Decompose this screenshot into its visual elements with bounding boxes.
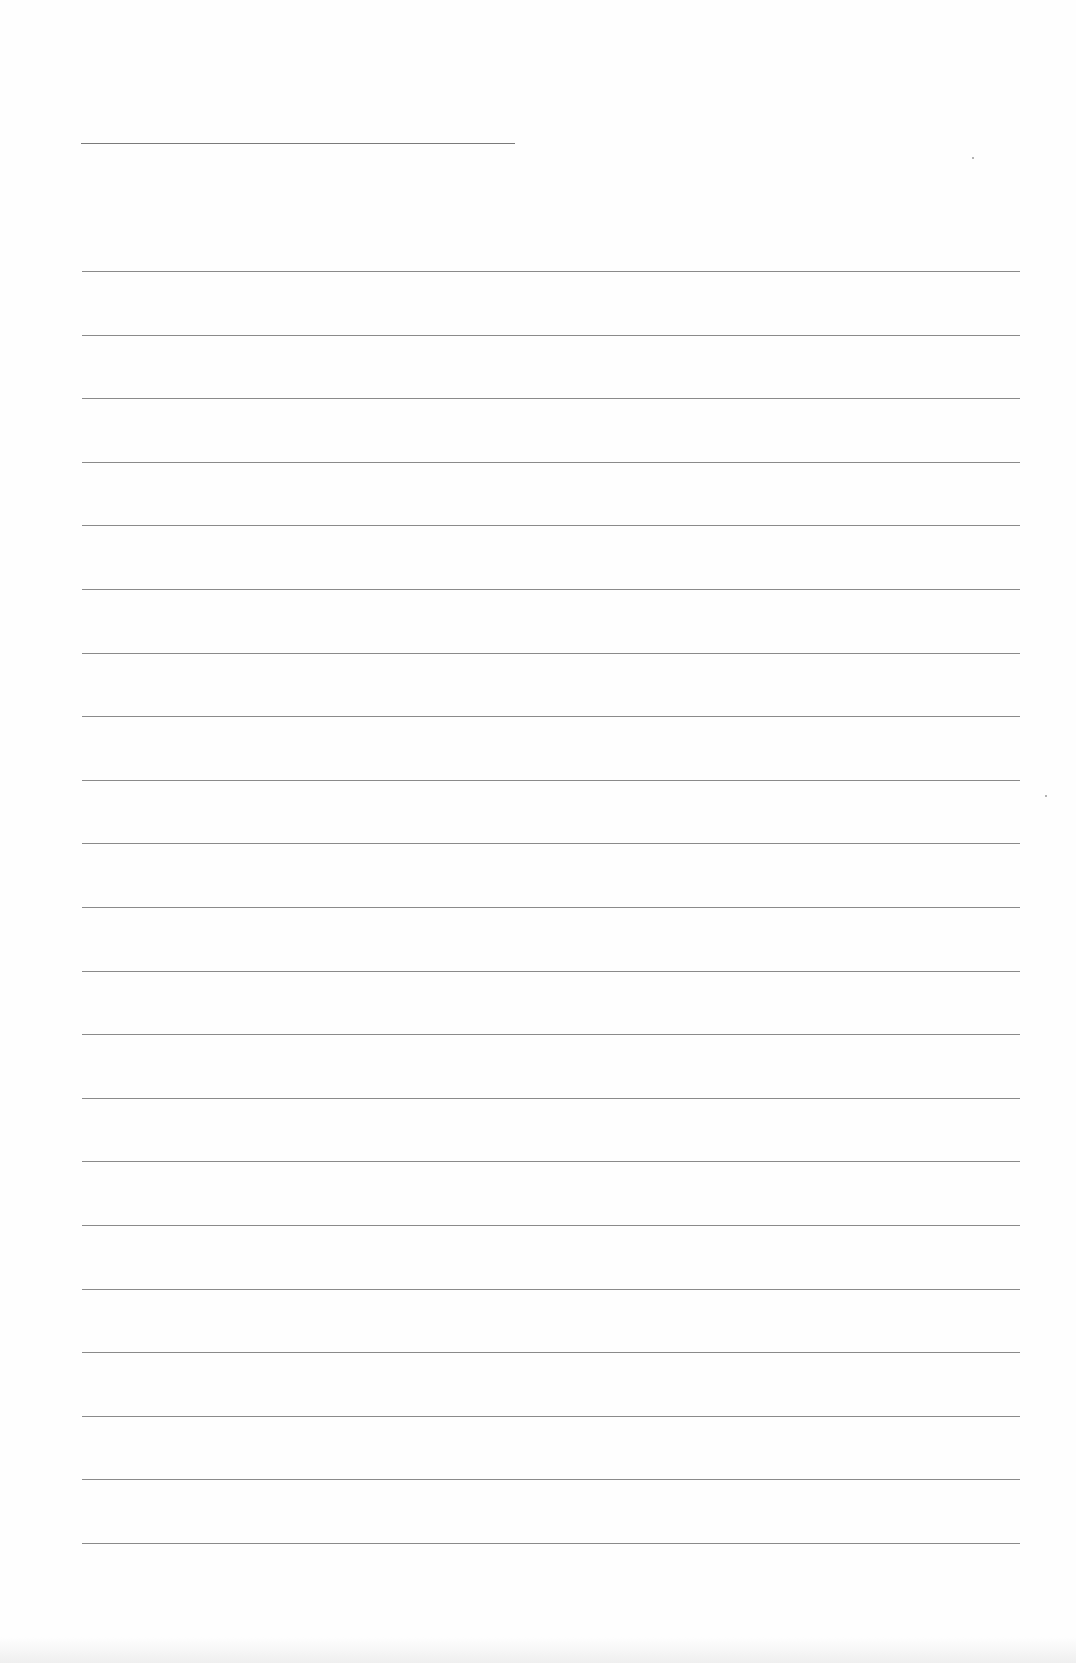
ruled-line [82, 1352, 1020, 1353]
ruled-line [82, 335, 1020, 336]
ruled-line [82, 271, 1020, 272]
ruled-line [82, 1543, 1020, 1544]
scan-speck [1045, 795, 1047, 797]
scan-speck [972, 157, 974, 159]
ruled-line [82, 1289, 1020, 1290]
ruled-line [82, 1034, 1020, 1035]
ruled-line [82, 1479, 1020, 1480]
ruled-line [82, 716, 1020, 717]
ruled-line [82, 971, 1020, 972]
ruled-line [82, 462, 1020, 463]
ruled-line [82, 398, 1020, 399]
ruled-line [82, 1416, 1020, 1417]
ruled-line [82, 1225, 1020, 1226]
ruled-line [82, 907, 1020, 908]
scan-edge-shadow [0, 1637, 1076, 1663]
ruled-line [82, 525, 1020, 526]
title-line [81, 143, 515, 144]
ruled-line [82, 1098, 1020, 1099]
ruled-line [82, 843, 1020, 844]
ruled-line [82, 1161, 1020, 1162]
ruled-line [82, 653, 1020, 654]
lined-page [0, 0, 1076, 1663]
ruled-line [82, 589, 1020, 590]
ruled-line [82, 780, 1020, 781]
